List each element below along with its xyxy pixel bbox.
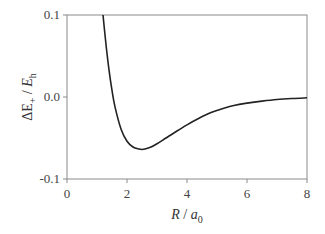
x-tick-label: 8 xyxy=(304,186,311,201)
x-tick-label: 0 xyxy=(64,186,71,201)
energy-curve xyxy=(103,15,307,149)
x-tick-label: 4 xyxy=(184,186,191,201)
line-chart: 02468 0.10.0-0.1 R / a0 ΔE+ / Eh xyxy=(0,0,325,234)
x-axis-ticks: 02468 xyxy=(64,179,311,201)
y-tick-label: -0.1 xyxy=(39,171,60,186)
y-tick-label: 0.0 xyxy=(44,89,60,104)
plot-frame xyxy=(67,15,307,179)
y-axis-ticks: 0.10.0-0.1 xyxy=(39,7,67,186)
x-tick-label: 6 xyxy=(244,186,251,201)
x-axis-label: R / a0 xyxy=(170,207,202,225)
x-tick-label: 2 xyxy=(124,186,131,201)
y-axis-label: ΔE+ / Eh xyxy=(20,73,38,121)
y-tick-label: 0.1 xyxy=(44,7,60,22)
